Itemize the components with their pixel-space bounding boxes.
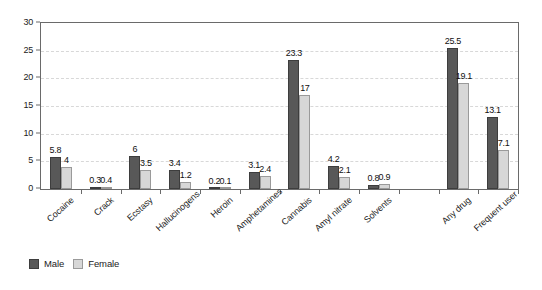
legend-swatch-icon [29,259,39,269]
bar-female[interactable] [339,177,350,189]
bar-female[interactable] [101,187,112,189]
x-axis-tick-mark [478,190,479,194]
bar-value-label: 5.8 [50,146,62,155]
legend: MaleFemale [29,259,119,269]
y-axis-tick-label: 25 [23,45,33,54]
legend-label: Female [88,259,119,269]
bar-female[interactable] [220,187,231,189]
x-axis-labels: CocaineCrackEcstasyHallucinogensHeroinAm… [41,195,518,255]
x-axis-tick-mark [121,190,122,194]
y-axis: 051015202530 [0,22,40,190]
bar-value-label: 3.5 [140,159,152,168]
bar-value-label: 3.4 [169,159,181,168]
bar-group [408,23,430,189]
bar-female[interactable] [498,150,509,189]
x-axis-category-label: Crack [74,195,115,233]
bar-value-label: 6 [133,145,138,154]
bar-value-label: 3.1 [248,161,260,170]
x-axis-category-label: Heroin [194,195,235,233]
bar-male[interactable] [169,170,180,189]
bar-value-label: 0.1 [220,177,232,186]
bar-group [209,23,231,189]
bar-chart: 051015202530 5.840.30.463.53.41.20.20.13… [0,0,542,290]
bar-value-label: 4.2 [328,155,340,164]
bar-value-label: 19.1 [456,72,472,81]
bar-male[interactable] [368,185,379,189]
x-axis-category-label: Solvents [353,195,394,233]
bar-male[interactable] [209,187,220,189]
bar-value-label: 0.9 [379,173,391,182]
x-axis-tick-mark [81,190,82,194]
bar-value-label: 2.4 [259,165,271,174]
bar-male[interactable] [487,117,498,189]
x-axis-category-label: Amphetamines [233,195,274,233]
legend-swatch-icon [73,259,83,269]
bar-female[interactable] [379,184,390,189]
x-axis-tick-mark [439,190,440,194]
x-axis-category-label: Frequent user [472,195,513,233]
x-axis-category-label: Ecstasy [114,195,155,233]
bar-male[interactable] [288,60,299,189]
y-axis-tick-label: 10 [23,128,33,137]
bar-value-label: 2.1 [339,166,351,175]
bars-layer: 5.840.30.463.53.41.20.20.13.12.423.3174.… [41,23,518,189]
y-axis-tick-label: 0 [28,184,33,193]
bar-female[interactable] [61,167,72,189]
x-axis-tick-mark [359,190,360,194]
bar-male[interactable] [50,157,61,189]
y-axis-tick-label: 20 [23,73,33,82]
x-axis-tick-mark [399,190,400,194]
x-axis-tick-mark [200,190,201,194]
bar-value-label: 0.3 [89,176,101,185]
bar-value-label: 7.1 [498,139,510,148]
x-axis-tick-mark [160,190,161,194]
legend-label: Male [44,259,64,269]
bar-male[interactable] [447,48,458,189]
bar-male[interactable] [129,156,140,189]
bar-female[interactable] [299,95,310,189]
bar-value-label: 4 [64,156,69,165]
x-axis-category-label: Hallucinogens [154,195,195,233]
bar-value-label: 17 [300,84,309,93]
y-axis-tick-label: 15 [23,101,33,110]
bar-female[interactable] [140,170,151,189]
bar-value-label: 1.2 [180,171,192,180]
x-axis-tick-mark [240,190,241,194]
bar-female[interactable] [180,182,191,189]
bar-value-label: 25.5 [445,37,461,46]
x-axis-category-label: Amyl nitrate [313,195,354,233]
bar-value-label: 23.3 [286,49,302,58]
bar-group [368,23,390,189]
y-axis-tick-label: 5 [28,156,33,165]
x-axis-category-label: Cannabis [273,195,314,233]
x-axis-category-label: Cocaine [35,195,76,233]
bar-male[interactable] [249,172,260,189]
bar-group [328,23,350,189]
bar-value-label: 0.8 [368,174,380,183]
bar-male[interactable] [90,187,101,189]
bar-female[interactable] [458,83,469,189]
bar-value-label: 0.2 [209,177,221,186]
y-axis-tick-label: 30 [23,18,33,27]
x-axis-category-label: Any drug [432,195,473,233]
bar-value-label: 0.4 [100,176,112,185]
bar-group [90,23,112,189]
bar-group [447,23,469,189]
bar-male[interactable] [328,166,339,189]
x-axis-tick-mark [319,190,320,194]
bar-female[interactable] [260,176,271,189]
legend-item[interactable]: Female [73,259,119,269]
legend-item[interactable]: Male [29,259,64,269]
bar-value-label: 13.1 [484,106,500,115]
x-axis-tick-mark [518,190,519,194]
